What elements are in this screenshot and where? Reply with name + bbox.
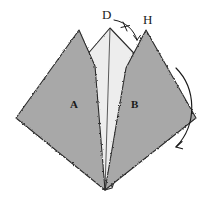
label-a: A xyxy=(70,99,78,110)
label-d: D xyxy=(102,8,111,21)
diagram-svg xyxy=(0,0,214,202)
angle-arc-arrowhead xyxy=(134,35,141,40)
label-h: H xyxy=(143,13,152,26)
figure-container: D H A B xyxy=(0,0,214,202)
label-b: B xyxy=(131,99,138,110)
